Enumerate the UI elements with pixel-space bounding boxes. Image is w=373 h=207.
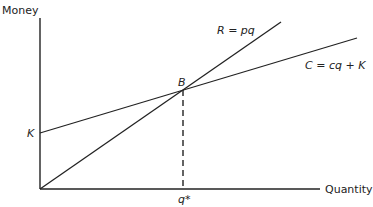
x-axis-label: Quantity (325, 183, 373, 196)
cost-line-label: C = cq + K (305, 59, 366, 72)
break-even-diagram: Money Quantity R = pq C = cq + K K B q* (0, 0, 373, 207)
break-even-point-label: B (178, 76, 186, 89)
break-even-quantity-label: q* (178, 193, 191, 206)
cost-line (40, 38, 357, 133)
intercept-label: K (27, 127, 35, 140)
y-axis-label: Money (2, 4, 39, 17)
revenue-line (40, 22, 281, 189)
revenue-line-label: R = pq (217, 24, 255, 37)
